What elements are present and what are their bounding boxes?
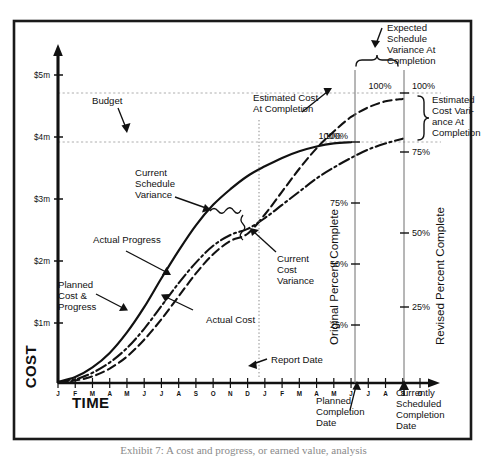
y-tick-label-5m: $5m bbox=[34, 71, 50, 80]
rev-pct-label-50: 50% bbox=[412, 228, 430, 238]
annotation-expected-schedule-variance-line3: Variance At bbox=[387, 44, 436, 55]
figure-caption: Exhibit 7: A cost and progress, or earne… bbox=[0, 444, 487, 456]
y-axis-title: COST bbox=[22, 345, 39, 388]
annotation-expected-schedule-variance-line1: Expected bbox=[387, 22, 427, 33]
annotation-estimated-cost-at-completion-line2: At Completion bbox=[253, 103, 313, 114]
x-axis-title: TIME bbox=[72, 394, 109, 411]
annotation-report-date: Report Date bbox=[271, 354, 323, 365]
annotation-budget: Budget bbox=[92, 95, 123, 106]
x-tick-label-9: O bbox=[211, 390, 216, 397]
x-tick-label-19: A bbox=[383, 390, 388, 397]
annotation-estimated-cost-at-completion-line1: Estimated Cost bbox=[253, 92, 318, 103]
annotation-current-schedule-variance-line2: Schedule bbox=[135, 178, 175, 189]
rev-pct-label-25: 25% bbox=[412, 302, 430, 312]
x-tick-label-14: M bbox=[297, 390, 302, 397]
x-tick-label-0: J bbox=[56, 390, 60, 397]
y-tick-label-1m: $1m bbox=[34, 319, 50, 328]
annotation-planned-completion-line2: Completion bbox=[316, 406, 365, 417]
y-tick-label-2m: $2m bbox=[34, 257, 50, 266]
x-tick-label-10: N bbox=[228, 390, 233, 397]
annotation-current-schedule-variance-line1: Current bbox=[135, 167, 167, 178]
annotation-expected-schedule-variance-line4: Completion bbox=[387, 55, 436, 66]
x-tick-label-12: J bbox=[263, 390, 267, 397]
annotation-estimated-cost-variance-line2: Cost Vari- bbox=[432, 105, 474, 116]
annotation-actual-progress: Actual Progress bbox=[93, 234, 161, 245]
annotation-estimated-cost-variance-line1: Estimated bbox=[432, 94, 475, 105]
rev-pct-label-100: 100% bbox=[412, 81, 435, 91]
annotation-currently-scheduled-line2: Scheduled bbox=[396, 398, 441, 409]
annotation-estimated-cost-variance-line3: ance At bbox=[432, 116, 464, 127]
x-tick-label-7: A bbox=[176, 390, 181, 397]
annotation-currently-scheduled-line1: Currently bbox=[396, 387, 435, 398]
cost-curve-100pct-label: 100% bbox=[368, 81, 391, 91]
annotation-planned-cost-line1: Planned bbox=[58, 279, 93, 290]
x-tick-label-5: J bbox=[142, 390, 146, 397]
annotation-current-cost-variance-line1: Current bbox=[277, 253, 309, 264]
annotation-planned-completion-line3: Date bbox=[316, 417, 336, 428]
x-tick-label-13: F bbox=[280, 390, 284, 397]
annotation-planned-cost-line3: Progress bbox=[58, 301, 97, 312]
annotation-current-schedule-variance-line3: Variance bbox=[135, 189, 172, 200]
rev-pct-axis-title: Revised Percent Complete bbox=[433, 207, 446, 345]
x-tick-label-11: D bbox=[245, 390, 250, 397]
rev-pct-label-75: 75% bbox=[412, 147, 430, 157]
y-tick-label-4m: $4m bbox=[34, 133, 50, 142]
x-tick-label-4: M bbox=[124, 390, 129, 397]
annotation-estimated-cost-variance-line4: Completion bbox=[432, 127, 481, 138]
annotation-expected-schedule-variance-line2: Schedule bbox=[387, 33, 427, 44]
planned-curve-100pct-label: 100% bbox=[318, 131, 341, 141]
orig-pct-axis-title: Original Percent Complete bbox=[327, 209, 340, 345]
annotation-planned-completion-line1: Planned bbox=[316, 395, 351, 406]
annotation-actual-cost: Actual Cost bbox=[206, 314, 255, 325]
x-tick-label-18: J bbox=[367, 390, 371, 397]
annotation-current-cost-variance-line2: Cost bbox=[277, 264, 297, 275]
x-tick-label-6: J bbox=[160, 390, 164, 397]
x-tick-label-8: S bbox=[194, 390, 198, 397]
annotation-planned-cost-line2: Cost & bbox=[58, 290, 87, 301]
annotation-currently-scheduled-line4: Date bbox=[396, 420, 416, 431]
orig-pct-label-75: 75% bbox=[330, 198, 348, 208]
annotation-currently-scheduled-line3: Completion bbox=[396, 409, 445, 420]
y-tick-label-3m: $3m bbox=[34, 195, 50, 204]
annotation-current-cost-variance-line3: Variance bbox=[277, 275, 314, 286]
